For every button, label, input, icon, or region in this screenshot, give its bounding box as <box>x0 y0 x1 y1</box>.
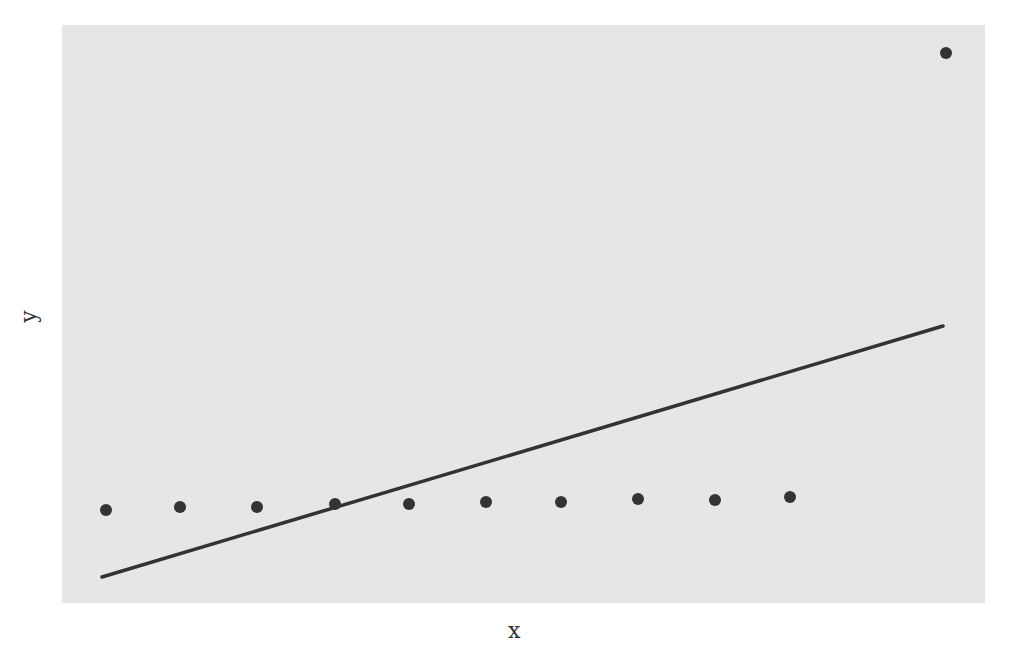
data-point <box>329 498 341 510</box>
data-point <box>709 494 721 506</box>
fit-line <box>102 326 943 577</box>
data-point <box>480 496 492 508</box>
data-point <box>784 491 796 503</box>
data-point <box>940 47 952 59</box>
scatter-plot <box>0 0 1019 666</box>
data-point <box>251 501 263 513</box>
x-axis-label: x <box>508 618 520 643</box>
data-point <box>403 498 415 510</box>
data-point <box>555 496 567 508</box>
data-point <box>100 504 112 516</box>
data-point <box>632 493 644 505</box>
y-axis-label: y <box>16 310 41 322</box>
data-point <box>174 501 186 513</box>
